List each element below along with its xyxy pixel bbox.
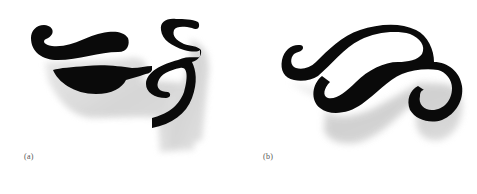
figure-a-canvas: [0, 0, 240, 194]
figure-b-canvas: [240, 0, 477, 194]
figure-a-teardrop-stroke: [31, 25, 129, 60]
figure-a: (a): [0, 0, 240, 194]
figure-b: (b): [240, 0, 477, 194]
figure-a-label: (a): [24, 152, 34, 161]
figure-b-label: (b): [263, 152, 273, 161]
